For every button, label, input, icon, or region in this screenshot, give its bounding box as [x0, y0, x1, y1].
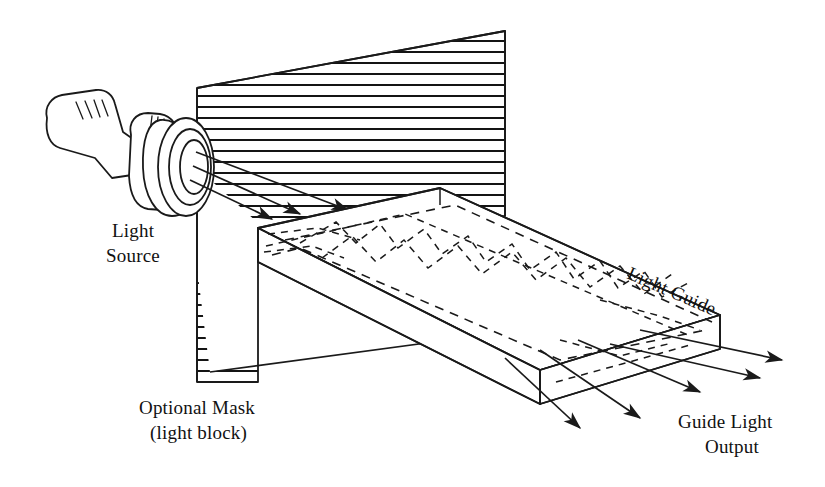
label-optional-mask-line2: (light block): [150, 422, 247, 444]
label-guide-output-line1: Guide Light: [678, 411, 773, 432]
label-optional-mask-line1: Optional Mask: [139, 397, 255, 418]
figure-root: Light Source Optional Mask (light block)…: [0, 0, 825, 487]
label-light-source-line1: Light: [112, 220, 155, 241]
label-guide-output-line2: Output: [705, 436, 760, 457]
label-light-source-line2: Source: [106, 245, 160, 266]
light-guide-diagram: Light Source Optional Mask (light block)…: [0, 0, 825, 487]
flashlight-lens-ring-outer: [158, 118, 214, 216]
